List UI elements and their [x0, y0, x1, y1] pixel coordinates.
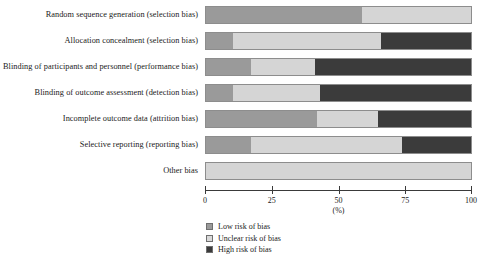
bar-row: Blinding of outcome assessment (detectio… — [0, 82, 481, 104]
bar-rows: Random sequence generation (selection bi… — [0, 4, 481, 186]
bar-segment-low — [206, 111, 317, 127]
x-axis-title: (%) — [205, 206, 472, 215]
x-axis-tick-label: 50 — [335, 196, 343, 205]
chart-legend: Low risk of biasUnclear risk of biasHigh… — [206, 221, 281, 256]
bar-row-label: Blinding of outcome assessment (detectio… — [0, 88, 205, 98]
bar-segment-unclear — [251, 59, 315, 75]
bar-row-label: Allocation concealment (selection bias) — [0, 36, 205, 46]
bar-segment-unclear — [206, 163, 471, 179]
stacked-bar — [205, 84, 472, 102]
bar-row-label: Other bias — [0, 166, 205, 176]
x-axis-tick-label: 0 — [203, 196, 207, 205]
stacked-bar — [205, 32, 472, 50]
bar-segment-low — [206, 33, 233, 49]
bar-row-label: Selective reporting (reporting bias) — [0, 140, 205, 150]
x-axis-tick-upper — [272, 186, 273, 190]
bar-segment-unclear — [233, 85, 320, 101]
bar-row: Other bias — [0, 160, 481, 182]
legend-label: Unclear risk of bias — [218, 234, 281, 243]
x-axis-tick-label: 75 — [401, 196, 409, 205]
bar-segment-high — [378, 111, 471, 127]
bar-row-label: Blinding of participants and personnel (… — [0, 62, 205, 72]
bar-row-label: Incomplete outcome data (attrition bias) — [0, 114, 205, 124]
x-axis-tick-label: 25 — [268, 196, 276, 205]
bar-segment-unclear — [251, 137, 402, 153]
legend-swatch-unclear — [206, 235, 213, 242]
bar-row: Selective reporting (reporting bias) — [0, 134, 481, 156]
legend-swatch-high — [206, 246, 213, 253]
x-axis-tick-upper — [339, 186, 340, 190]
x-axis-tick-label: 100 — [465, 196, 477, 205]
bar-row: Random sequence generation (selection bi… — [0, 4, 481, 26]
bar-segment-low — [206, 137, 251, 153]
bar-segment-high — [320, 85, 471, 101]
legend-item: Low risk of bias — [206, 221, 281, 232]
stacked-bar — [205, 6, 472, 24]
bar-segment-high — [402, 137, 471, 153]
bar-row-label: Random sequence generation (selection bi… — [0, 10, 205, 20]
x-axis-tick-upper — [205, 186, 206, 190]
x-axis-tick-upper — [471, 186, 472, 190]
bar-segment-unclear — [317, 111, 378, 127]
x-axis-tick — [339, 190, 340, 194]
bar-row: Incomplete outcome data (attrition bias) — [0, 108, 481, 130]
bar-row: Blinding of participants and personnel (… — [0, 56, 481, 78]
legend-label: Low risk of bias — [218, 222, 270, 231]
x-axis: 0255075100 — [205, 190, 472, 191]
bar-row: Allocation concealment (selection bias) — [0, 30, 481, 52]
stacked-bar — [205, 110, 472, 128]
x-axis-tick — [272, 190, 273, 194]
bar-segment-low — [206, 59, 251, 75]
bar-segment-low — [206, 85, 233, 101]
bar-segment-low — [206, 7, 362, 23]
stacked-bar — [205, 162, 472, 180]
x-axis-tick — [205, 190, 206, 194]
risk-of-bias-graph: Random sequence generation (selection bi… — [0, 0, 481, 265]
legend-swatch-low — [206, 223, 213, 230]
x-axis-tick — [405, 190, 406, 194]
x-axis-tick-upper — [405, 186, 406, 190]
stacked-bar — [205, 58, 472, 76]
x-axis-tick — [471, 190, 472, 194]
stacked-bar — [205, 136, 472, 154]
bar-segment-high — [315, 59, 471, 75]
legend-item: Unclear risk of bias — [206, 233, 281, 244]
bar-segment-high — [381, 33, 471, 49]
bar-segment-unclear — [233, 33, 381, 49]
legend-item: High risk of bias — [206, 244, 281, 255]
legend-label: High risk of bias — [218, 245, 272, 254]
bar-segment-unclear — [362, 7, 471, 23]
